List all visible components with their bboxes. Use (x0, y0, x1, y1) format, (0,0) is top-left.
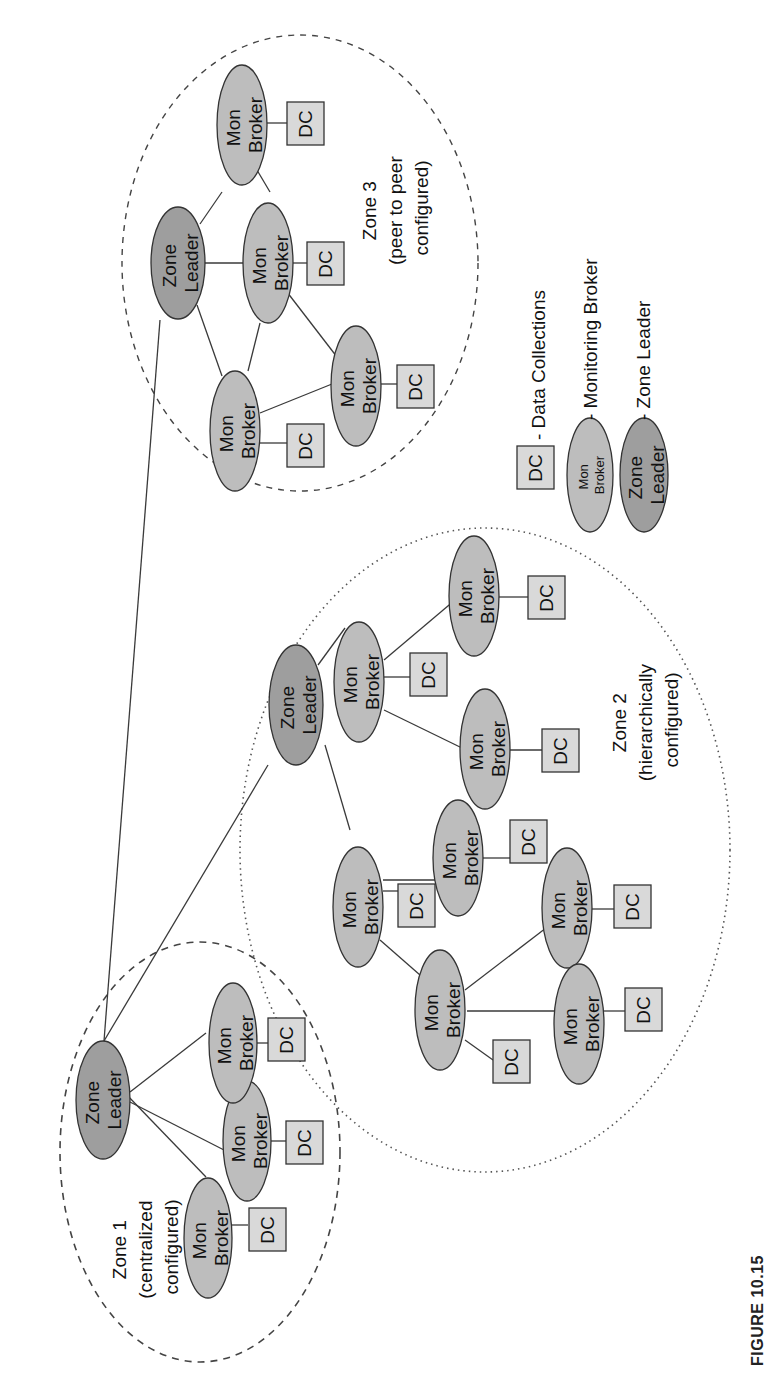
zone3: Zone Leader Mon Broker DC Mon Broker DC (151, 65, 434, 491)
svg-text:DC: DC (418, 661, 439, 688)
zone2: Zone Leader Mon Broker DC Mon Broker D (269, 536, 682, 1084)
zone1-dc-1: DC (249, 1208, 286, 1251)
zone2-broker-upper-a: Mon Broker (449, 536, 499, 656)
svg-text:DC: DC (276, 1026, 297, 1053)
svg-text:DC: DC (405, 373, 426, 400)
svg-text:DC: DC (536, 584, 557, 611)
zone3-dc-right: DC (397, 365, 434, 408)
zone3-dc-middle: DC (307, 242, 344, 285)
svg-text:Mon Broker: Mon Broker (466, 720, 509, 777)
zone2-broker-lower-b: Mon Broker (415, 950, 465, 1070)
zone1: Zone Leader Mon Broker DC Mon Broker DC (76, 983, 323, 1299)
svg-text:Mon Broker: Mon Broker (223, 96, 266, 153)
zone2-broker-lower-c: Mon Broker (542, 848, 592, 968)
zone2-broker-upper: Mon Broker (334, 622, 384, 742)
zone1-broker-3: Mon Broker (209, 983, 257, 1103)
svg-text:- Monitoring Broker: - Monitoring Broker (580, 258, 601, 420)
zone2-broker-lower: Mon Broker (333, 847, 383, 967)
svg-text:- Zone Leader: - Zone Leader (633, 300, 654, 420)
zone3-dc-top: DC (287, 102, 324, 145)
svg-text:DC: DC (295, 432, 316, 459)
svg-text:DC: DC (257, 1216, 278, 1243)
svg-text:Mon Broker: Mon Broker (455, 567, 498, 624)
svg-text:Zone Leader: Zone Leader (625, 445, 668, 505)
zone1-dc-3: DC (268, 1018, 305, 1061)
zone3-broker-middle: Mon Broker (243, 203, 293, 323)
svg-text:Mon Broker: Mon Broker (339, 878, 382, 935)
zone2-broker-upper-b: Mon Broker (460, 689, 510, 809)
legend-item-mon-broker: Mon Broker - Monitoring Broker (567, 258, 613, 532)
svg-text:Mon Broker: Mon Broker (337, 357, 380, 414)
svg-text:- Data Collections: - Data Collections (528, 290, 549, 440)
svg-text:DC: DC (525, 454, 546, 481)
svg-text:DC: DC (501, 1048, 522, 1075)
zone3-label: Zone 3 (peer to peer configured) (359, 151, 432, 265)
svg-text:Mon Broker: Mon Broker (189, 1209, 232, 1266)
zone1-leader: Zone Leader (76, 1041, 130, 1159)
svg-text:Mon Broker: Mon Broker (576, 455, 607, 494)
zone2-label: Zone 2 (hierarchically configured) (609, 659, 682, 781)
zone2-dc-lower-b: DC (493, 1040, 530, 1083)
svg-text:Mon Broker: Mon Broker (421, 981, 464, 1038)
zone1-dc-2: DC (286, 1121, 323, 1164)
svg-text:DC: DC (622, 893, 643, 920)
svg-text:Mon Broker: Mon Broker (340, 653, 383, 710)
legend-item-zone-leader: Zone Leader - Zone Leader (620, 300, 668, 532)
svg-text:Zone Leader: Zone Leader (82, 1070, 125, 1130)
svg-text:Zone Leader: Zone Leader (159, 233, 202, 293)
svg-text:DC: DC (295, 110, 316, 137)
zone3-broker-top: Mon Broker (217, 65, 267, 185)
zone2-dc-lower-d: DC (625, 988, 662, 1031)
svg-text:Mon Broker: Mon Broker (439, 829, 482, 886)
zone2-dc-upper-a: DC (528, 576, 565, 619)
svg-text:DC: DC (518, 828, 539, 855)
zone2-broker-lower-d: Mon Broker (554, 964, 604, 1084)
svg-text:DC: DC (315, 250, 336, 277)
svg-text:Zone Leader: Zone Leader (277, 675, 320, 735)
zone2-dc-upper-b: DC (542, 729, 579, 772)
zone2-leader: Zone Leader (269, 645, 323, 765)
svg-text:Mon Broker: Mon Broker (560, 995, 603, 1052)
zone3-dc-bottom: DC (287, 424, 324, 467)
zone3-broker-right: Mon Broker (331, 326, 381, 446)
legend-item-dc: DC - Data Collections (517, 290, 554, 489)
svg-text:DC: DC (633, 996, 654, 1023)
svg-text:Mon Broker: Mon Broker (214, 1014, 257, 1071)
zone1-label: Zone 1 (centralized configured) (109, 1195, 182, 1299)
svg-text:Mon Broker: Mon Broker (228, 1112, 271, 1169)
zone2-dc-lower: DC (398, 884, 435, 927)
svg-text:Mon Broker: Mon Broker (548, 879, 591, 936)
svg-text:DC: DC (406, 892, 427, 919)
svg-text:Mon Broker: Mon Broker (216, 402, 259, 459)
legend: DC - Data Collections Mon Broker - Monit… (517, 258, 668, 532)
svg-text:DC: DC (294, 1129, 315, 1156)
svg-text:DC: DC (550, 737, 571, 764)
monitoring-zones-diagram: Zone Leader Mon Broker DC Mon Broker DC (0, 0, 779, 1384)
zone2-dc-lower-a: DC (510, 820, 547, 863)
zone1-broker-1: Mon Broker (184, 1178, 232, 1298)
zone2-broker-lower-a: Mon Broker (433, 800, 483, 916)
zone3-leader: Zone Leader (151, 207, 205, 319)
svg-text:Mon Broker: Mon Broker (249, 234, 292, 291)
zone2-dc-upper: DC (410, 653, 447, 696)
zone3-broker-bottom: Mon Broker (210, 371, 260, 491)
figure-caption: FIGURE 10.15 (749, 1255, 766, 1366)
zone2-dc-lower-c: DC (614, 885, 651, 928)
